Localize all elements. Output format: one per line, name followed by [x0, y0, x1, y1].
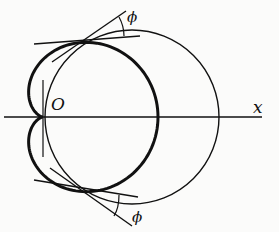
lower-tangent-steep: [50, 168, 132, 226]
diagram-canvas: O x ϕ ϕ: [0, 0, 279, 232]
origin-label: O: [51, 94, 65, 114]
angle-label-top: ϕ: [127, 8, 137, 26]
x-axis-label: x: [253, 97, 263, 117]
angle-label-bottom: ϕ: [132, 208, 142, 226]
lower-angle-arc: [114, 195, 119, 216]
upper-tangent-steep: [52, 11, 126, 62]
upper-angle-arc: [119, 17, 124, 36]
cardioid-diagram: O x ϕ ϕ: [0, 0, 279, 232]
